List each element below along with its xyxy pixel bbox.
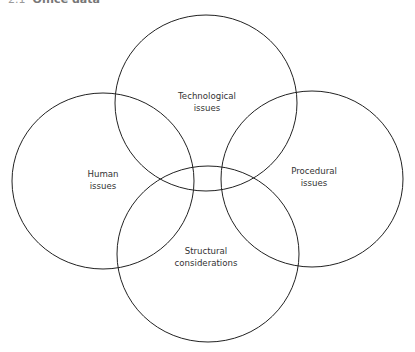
label-line: Procedural [254,165,374,177]
label-line: Human [43,168,163,180]
human-issues-label: Human issues [43,168,163,192]
procedural-issues-label: Procedural issues [254,165,374,189]
label-line: Structural [146,245,266,257]
label-line: issues [43,180,163,192]
structural-considerations-label: Structural considerations [146,245,266,269]
label-line: considerations [146,257,266,269]
label-line: issues [147,102,267,114]
label-line: issues [254,177,374,189]
label-line: Technological [147,90,267,102]
technological-issues-label: Technological issues [147,90,267,114]
